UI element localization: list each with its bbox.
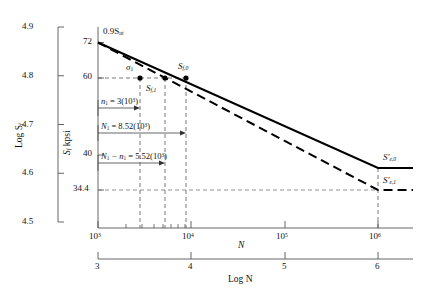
sf0-subscript: f,0	[183, 65, 189, 71]
y-axis-tick-60: 60	[83, 71, 92, 81]
label-0-9-sut: 0.9Sut	[103, 26, 124, 36]
x-tick-1e4-base: 10	[182, 231, 191, 241]
sn-fatigue-chart: 4.9 4.8 4.7 4.6 4.5 Log Sf 72 60 40 34.4…	[0, 0, 429, 300]
x-tick-1e5-base: 10	[276, 231, 285, 241]
x2-axis-tick-4: 4	[188, 261, 193, 271]
x2-axis-title-text: Log N	[228, 274, 253, 284]
label-se-1: S′e,1	[383, 175, 396, 185]
marker-sf0	[183, 75, 188, 80]
n1-tail: )	[135, 96, 138, 106]
marker-sigma1	[137, 75, 142, 80]
left-axis-title-text: Log S	[14, 125, 24, 148]
left-axis-tick-4-8: 4.8	[22, 70, 33, 80]
annotation-N1-minus-n1: N1 − n1 = 5.52(103)	[101, 151, 167, 161]
marker-sf1	[162, 75, 167, 80]
N1n1-equals: = 5.52(10	[126, 151, 161, 161]
x-tick-1e4-exponent: 4	[191, 232, 194, 238]
x-tick-1e6-base: 10	[369, 231, 378, 241]
x-axis-tick-1e6: 106	[369, 231, 381, 241]
n1-equals: = 3(10	[108, 96, 133, 106]
N1n1-tail: )	[164, 151, 167, 161]
annotation-N1: N1 = 8.52(103)	[101, 121, 150, 131]
x-tick-1e5-exponent: 5	[285, 232, 288, 238]
x-axis-tick-1e5: 105	[276, 231, 288, 241]
N1-tail: )	[147, 121, 150, 131]
y-axis-tick-40: 40	[83, 148, 92, 158]
label-se-0: S′e,0	[383, 152, 396, 162]
x2-axis-tick-5: 5	[282, 261, 287, 271]
N1-equals: = 8.52(10	[109, 121, 144, 131]
x-axis-title: N	[238, 240, 244, 250]
x2-axis-tick-3: 3	[95, 261, 100, 271]
x-tick-1e3-base: 10	[89, 231, 98, 241]
primary-x-axis	[98, 221, 413, 228]
sf1-subscript: f,1	[151, 87, 157, 93]
x-axis-tick-1e3: 103	[89, 231, 101, 241]
sigma1-subscript: 1	[130, 66, 133, 72]
annotation-n1: n1 = 3(103)	[101, 96, 138, 106]
x2-axis-title: Log N	[228, 274, 253, 284]
left-secondary-axis	[58, 27, 64, 222]
x2-axis-tick-6: 6	[375, 261, 380, 271]
sut-coefficient: 0.9S	[103, 26, 119, 36]
y-axis-tick-34-4: 34.4	[73, 183, 89, 193]
x-tick-1e3-exponent: 3	[98, 232, 101, 238]
left-axis-title: Log Sf	[14, 123, 24, 148]
y-axis-tick-72: 72	[83, 36, 92, 46]
se0-subscript: e,0	[389, 156, 396, 162]
se1-subscript: e,1	[389, 179, 396, 185]
left-axis-tick-4-6: 4.6	[22, 167, 33, 177]
left-axis-tick-4-5: 4.5	[22, 216, 33, 226]
label-sigma-1: σ1	[126, 62, 133, 72]
y-axis-title-text: S	[62, 150, 72, 155]
x-axis-tick-1e4: 104	[182, 231, 194, 241]
series-virgin-curve	[98, 43, 413, 169]
left-axis-tick-4-9: 4.9	[22, 21, 33, 31]
y-axis-title-unit: kpsi	[62, 130, 72, 148]
label-sf-0: Sf,0	[178, 61, 188, 71]
left-axis-title-subscript: f	[18, 123, 24, 125]
sut-subscript: ut	[119, 30, 123, 36]
y-axis-title: Sf kpsi	[62, 130, 72, 155]
x-tick-1e6-exponent: 6	[378, 232, 381, 238]
N1n1-mid: − n	[109, 151, 123, 161]
label-sf-1: Sf,1	[146, 83, 156, 93]
secondary-x-axis	[98, 252, 413, 259]
